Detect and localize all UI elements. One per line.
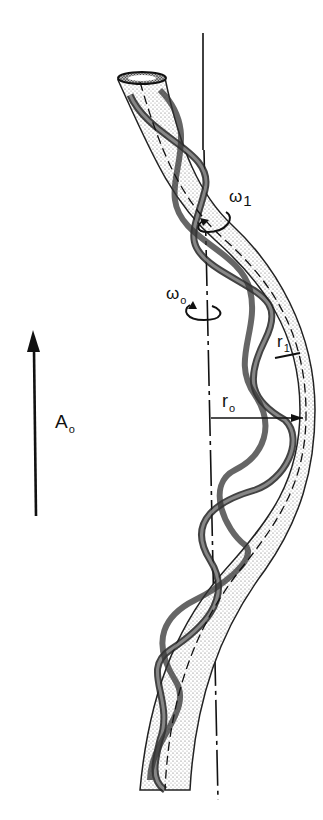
r1-symbol: r bbox=[277, 332, 283, 351]
a0-symbol: A bbox=[55, 411, 68, 432]
omega1-symbol: ω bbox=[229, 187, 242, 206]
omega1-subscript: 1 bbox=[243, 192, 251, 209]
omega0-rotation-arrow bbox=[186, 301, 220, 320]
omega0-subscript: o bbox=[180, 294, 186, 306]
a0-direction-arrow bbox=[27, 330, 40, 516]
omega0-label: ωo bbox=[166, 285, 186, 302]
r0-subscript: o bbox=[229, 402, 235, 414]
omega0-symbol: ω bbox=[166, 284, 179, 303]
superhelix-diagram bbox=[0, 0, 323, 820]
omega1-label: ω1 bbox=[229, 188, 252, 205]
a0-label: Ao bbox=[55, 412, 75, 431]
outer-tube bbox=[118, 72, 315, 790]
inner-helix-strands bbox=[130, 90, 293, 790]
a0-subscript: o bbox=[69, 423, 75, 435]
r0-symbol: r bbox=[222, 391, 228, 411]
r1-subscript: 1 bbox=[284, 342, 290, 354]
r0-label: ro bbox=[222, 392, 235, 410]
r1-label: r1 bbox=[277, 333, 290, 350]
